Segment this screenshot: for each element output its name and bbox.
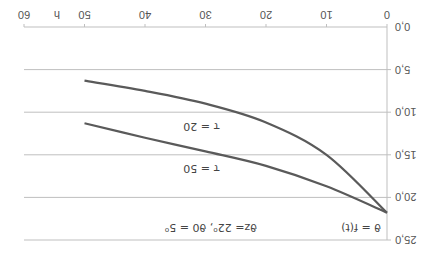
chart-container: 0102030405060 0,05,010,015,020,025,0 h τ…	[0, 0, 435, 266]
y-tick-label: 0,0	[395, 21, 410, 33]
x-axis-label: h	[54, 9, 60, 21]
params-label: ϑz= 22⁰, ϑ0 = 5⁰	[164, 221, 257, 234]
chart-svg: 0102030405060 0,05,010,015,020,025,0 h τ…	[0, 0, 435, 266]
y-tick-label: 15,0	[395, 149, 416, 161]
grid-lines	[24, 70, 391, 240]
y-tick-label: 5,0	[395, 64, 410, 76]
y-tick-labels: 0,05,010,015,020,025,0	[395, 21, 416, 246]
x-tick-label: 60	[18, 9, 30, 21]
tau50-label: τ = 50	[183, 162, 220, 175]
y-tick-label: 10,0	[395, 106, 416, 118]
y-tick-label: 25,0	[395, 234, 416, 246]
function-label: ϑ = f(t)	[341, 221, 381, 234]
x-tick-label: 10	[320, 9, 332, 21]
y-tick-label: 20,0	[395, 191, 416, 203]
curves	[85, 81, 388, 213]
x-tick-labels: 0102030405060	[18, 9, 390, 27]
x-tick-label: 40	[139, 9, 151, 21]
x-tick-label: 30	[199, 9, 211, 21]
x-tick-label: 0	[384, 9, 390, 21]
x-tick-label: 50	[78, 9, 90, 21]
tau20-label: τ = 20	[183, 120, 220, 133]
x-tick-label: 20	[260, 9, 272, 21]
